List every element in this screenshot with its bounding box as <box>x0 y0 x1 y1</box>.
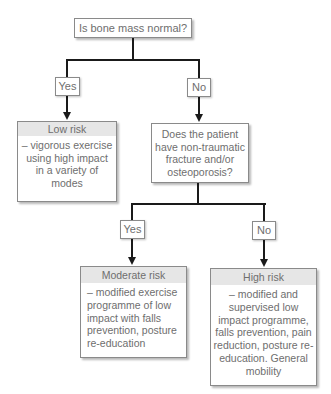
arrow-down-icon <box>195 114 203 122</box>
high-risk-title: High risk <box>211 269 316 285</box>
low-risk-text: – vigorous exercise using high impact in… <box>18 136 116 191</box>
root-question-box: Is bone mass normal? <box>74 18 192 38</box>
high-risk-box: High risk – modified and supervised low … <box>210 268 317 386</box>
arrow-down-icon <box>128 257 136 265</box>
root-question-text: Is bone mass normal? <box>79 22 187 34</box>
connector-q2-down <box>197 183 199 205</box>
moderate-risk-box: Moderate risk – modified exercise progra… <box>80 266 187 358</box>
second-question-box: Does the patient have non-traumatic frac… <box>151 123 249 183</box>
low-risk-title: Low risk <box>18 122 116 136</box>
branch-yes-label: Yes <box>55 77 80 96</box>
connector-root-horizontal <box>66 59 200 61</box>
moderate-risk-text: – modified exercise programme of low imp… <box>81 283 186 352</box>
connector-root-down <box>132 38 134 61</box>
low-risk-box: Low risk – vigorous exercise using high … <box>17 121 117 202</box>
second-question-text: Does the patient have non-traumatic frac… <box>155 128 245 178</box>
moderate-risk-title: Moderate risk <box>81 267 186 283</box>
branch2-no-label: No <box>252 221 276 240</box>
branch2-yes-label: Yes <box>120 220 145 239</box>
high-risk-text: – modified and supervised low impact pro… <box>211 285 316 380</box>
arrow-down-icon <box>63 112 71 120</box>
branch-no-label: No <box>187 78 211 97</box>
arrow-down-icon <box>260 259 268 267</box>
connector-q2-horizontal <box>131 203 266 205</box>
